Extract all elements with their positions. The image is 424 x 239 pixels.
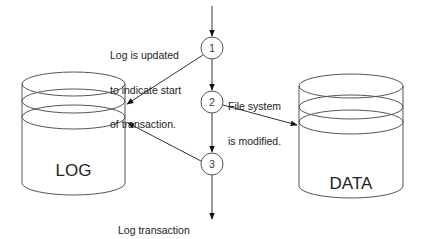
step-1-number: 1 — [209, 43, 215, 54]
annotation-step-3: Log transaction is marked complete and d… — [118, 202, 209, 239]
data-cylinder-ring-2 — [299, 110, 403, 134]
annotation-step-2-line-2: is modified. — [228, 136, 281, 148]
annotation-step-2: File system is modified. — [228, 78, 281, 170]
annotation-step-3-line-1: Log transaction — [118, 225, 209, 237]
annotation-step-1: Log is updated to indicate start of tran… — [110, 27, 181, 154]
annotation-step-1-line-3: of transaction. — [110, 119, 181, 131]
journaling-diagram: LOG DATA 1 2 — [0, 0, 424, 239]
annotation-step-2-line-1: File system — [228, 101, 281, 113]
step-1: 1 — [201, 37, 223, 59]
data-cylinder-top — [299, 74, 403, 98]
annotation-step-1-line-2: to indicate start — [110, 85, 181, 97]
data-cylinder-label: DATA — [330, 174, 373, 193]
step-3: 3 — [201, 153, 223, 175]
annotation-step-1-line-1: Log is updated — [110, 50, 181, 62]
step-3-number: 3 — [209, 159, 215, 170]
step-2-number: 2 — [209, 97, 215, 108]
step-2: 2 — [201, 91, 223, 113]
data-cylinder: DATA — [299, 74, 403, 198]
diagram-canvas: LOG DATA 1 2 — [0, 0, 424, 239]
log-cylinder-label: LOG — [56, 161, 92, 180]
data-cylinder-ring-1 — [299, 95, 403, 119]
